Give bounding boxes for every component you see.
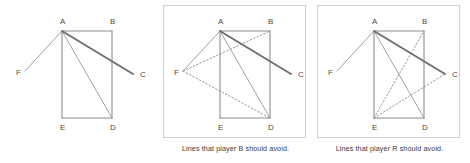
vertex-label-A: A bbox=[372, 17, 378, 26]
diagram-panel-player-b: ABCDEF Lines that player B should avoid. bbox=[158, 0, 313, 163]
diagram-svg-player-r: ABCDEF bbox=[312, 0, 467, 140]
dotted-segment-EC bbox=[374, 74, 445, 118]
vertex-label-D: D bbox=[110, 123, 116, 132]
panel-caption-player-r: Lines that player R should avoid. bbox=[312, 143, 467, 154]
vertex-label-E: E bbox=[60, 123, 65, 132]
vertex-label-E: E bbox=[218, 123, 223, 132]
vertex-label-C: C bbox=[298, 70, 304, 79]
vertex-label-B: B bbox=[268, 17, 273, 26]
vertex-label-B: B bbox=[110, 17, 115, 26]
vertex-label-E: E bbox=[372, 123, 377, 132]
segment-AD bbox=[62, 31, 112, 118]
vertex-label-F: F bbox=[16, 68, 21, 77]
diagram-svg-player-b: ABCDEF bbox=[158, 0, 313, 140]
vertex-label-F: F bbox=[328, 68, 333, 77]
vertex-label-F: F bbox=[174, 68, 179, 77]
panel-caption-player-b: Lines that player B should avoid. bbox=[158, 143, 313, 154]
vertex-label-A: A bbox=[218, 17, 224, 26]
vertex-label-D: D bbox=[268, 123, 274, 132]
diagram-svg-base: ABCDEF bbox=[0, 0, 155, 140]
vertex-label-C: C bbox=[452, 70, 458, 79]
vertex-label-D: D bbox=[422, 123, 428, 132]
dotted-segment-FB bbox=[183, 31, 270, 71]
segment-AF bbox=[337, 31, 374, 71]
diagram-panel-player-r: ABCDEF Lines that player R should avoid. bbox=[312, 0, 467, 163]
segment-AF bbox=[183, 31, 220, 71]
segment-AC bbox=[220, 31, 291, 74]
diagram-panel-base: ABCDEF bbox=[0, 0, 155, 163]
segment-AF bbox=[25, 31, 62, 71]
vertex-label-A: A bbox=[60, 17, 66, 26]
segment-AC bbox=[62, 31, 133, 74]
segment-AC bbox=[374, 31, 445, 74]
figure-board: ABCDEF ABCDEF Lines that player B should… bbox=[0, 0, 470, 163]
vertex-label-B: B bbox=[422, 17, 427, 26]
vertex-label-C: C bbox=[140, 70, 146, 79]
